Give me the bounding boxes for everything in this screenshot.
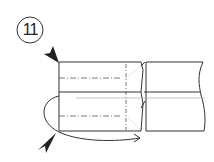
valley-fold-lines	[59, 78, 122, 116]
right-section-with-torn-edge	[144, 62, 205, 131]
top-push-arrow-icon	[44, 46, 59, 63]
bottom-push-arrow-icon	[38, 133, 56, 153]
step-number-label: 11	[17, 17, 43, 43]
rotation-arrow-icon	[44, 96, 140, 142]
folded-left-section	[59, 62, 145, 131]
